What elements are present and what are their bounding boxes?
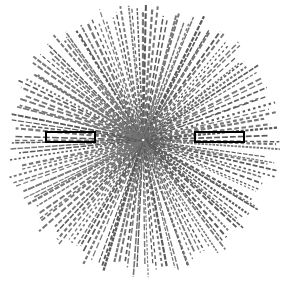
figure-root: [0, 0, 282, 288]
ray: [145, 73, 257, 139]
ray: [146, 142, 243, 217]
right-annotation-box[interactable]: [194, 131, 245, 143]
ray: [143, 143, 145, 265]
ray: [28, 142, 139, 204]
ray: [39, 143, 140, 232]
left-annotation-box[interactable]: [45, 131, 96, 143]
ray: [145, 144, 204, 251]
radial-line-field: [0, 0, 282, 288]
